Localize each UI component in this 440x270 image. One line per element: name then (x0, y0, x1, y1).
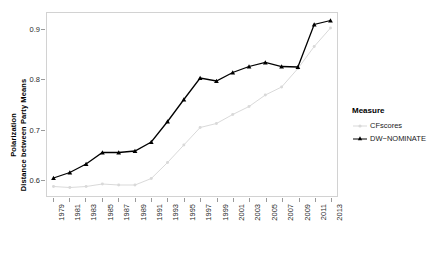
x-tick-mark (102, 198, 103, 202)
x-tick-mark (266, 198, 267, 202)
x-tick-label: 2009 (303, 204, 312, 254)
x-tick-mark (331, 198, 332, 202)
x-tick-mark (167, 198, 168, 202)
data-point (182, 144, 185, 147)
data-point (264, 94, 267, 97)
y-axis-tick-labels: 0.60.70.80.9 (0, 0, 40, 270)
y-tick-mark (41, 180, 45, 181)
x-tick-label: 1985 (106, 204, 115, 254)
x-tick-label: 1999 (221, 204, 230, 254)
y-tick-mark (41, 130, 45, 131)
data-point (133, 184, 136, 187)
y-tick-label: 0.8 (6, 75, 40, 84)
x-tick-mark (233, 198, 234, 202)
x-tick-mark (299, 198, 300, 202)
x-tick-mark (200, 198, 201, 202)
chart-figure: Polarization Distance between Party Mean… (0, 0, 440, 270)
x-tick-label: 2007 (286, 204, 295, 254)
y-tick-mark (41, 79, 45, 80)
plot-area (47, 13, 337, 196)
data-point (248, 105, 251, 108)
data-point (85, 185, 88, 188)
data-point (280, 86, 283, 89)
x-tick-label: 1991 (155, 204, 164, 254)
x-tick-label: 2001 (237, 204, 246, 254)
x-tick-label: 1983 (89, 204, 98, 254)
y-tick-mark (41, 29, 45, 30)
legend-title: Measure (352, 106, 440, 115)
legend: Measure CFscores DW−NOMINATE (352, 106, 440, 145)
x-tick-label: 2005 (270, 204, 279, 254)
legend-item-dw-nominate[interactable]: DW−NOMINATE (352, 132, 440, 145)
x-tick-label: 2011 (319, 204, 328, 254)
data-point (231, 113, 234, 116)
x-tick-label: 1995 (188, 204, 197, 254)
data-point (313, 45, 316, 48)
plot-panel (46, 12, 338, 197)
x-tick-mark (69, 198, 70, 202)
data-point (166, 161, 169, 164)
x-tick-mark (315, 198, 316, 202)
x-tick-label: 2003 (253, 204, 262, 254)
x-tick-label: 1987 (122, 204, 131, 254)
x-tick-mark (184, 198, 185, 202)
x-tick-label: 1979 (57, 204, 66, 254)
data-point (117, 184, 120, 187)
x-tick-mark (151, 198, 152, 202)
legend-key-line-icon-dw-nominate (352, 133, 368, 145)
x-tick-mark (118, 198, 119, 202)
x-axis-tick-labels: 1979198119831985198719891991199319951997… (46, 198, 338, 270)
data-point (199, 126, 202, 129)
x-tick-mark (282, 198, 283, 202)
x-tick-label: 1989 (139, 204, 148, 254)
legend-label-cfscores: CFscores (370, 121, 402, 130)
y-tick-label: 0.7 (6, 125, 40, 134)
series-line-dw-nominate (54, 21, 331, 179)
x-tick-label: 1981 (73, 204, 82, 254)
x-tick-mark (217, 198, 218, 202)
legend-key-line-icon-cfscores (352, 120, 368, 132)
data-point (68, 186, 71, 189)
data-point (215, 122, 218, 125)
data-point (329, 27, 332, 30)
x-tick-label: 1997 (204, 204, 213, 254)
x-tick-mark (53, 198, 54, 202)
x-tick-mark (249, 198, 250, 202)
data-point (101, 183, 104, 186)
x-tick-mark (135, 198, 136, 202)
x-tick-label: 2013 (335, 204, 344, 254)
y-tick-label: 0.6 (6, 176, 40, 185)
legend-label-dw-nominate: DW−NOMINATE (370, 134, 426, 143)
legend-item-cfscores[interactable]: CFscores (352, 119, 440, 132)
x-tick-label: 1993 (171, 204, 180, 254)
y-tick-label: 0.9 (6, 24, 40, 33)
x-tick-mark (85, 198, 86, 202)
series-line-cfscores (54, 28, 331, 188)
data-point (52, 185, 55, 188)
data-point (150, 177, 153, 180)
